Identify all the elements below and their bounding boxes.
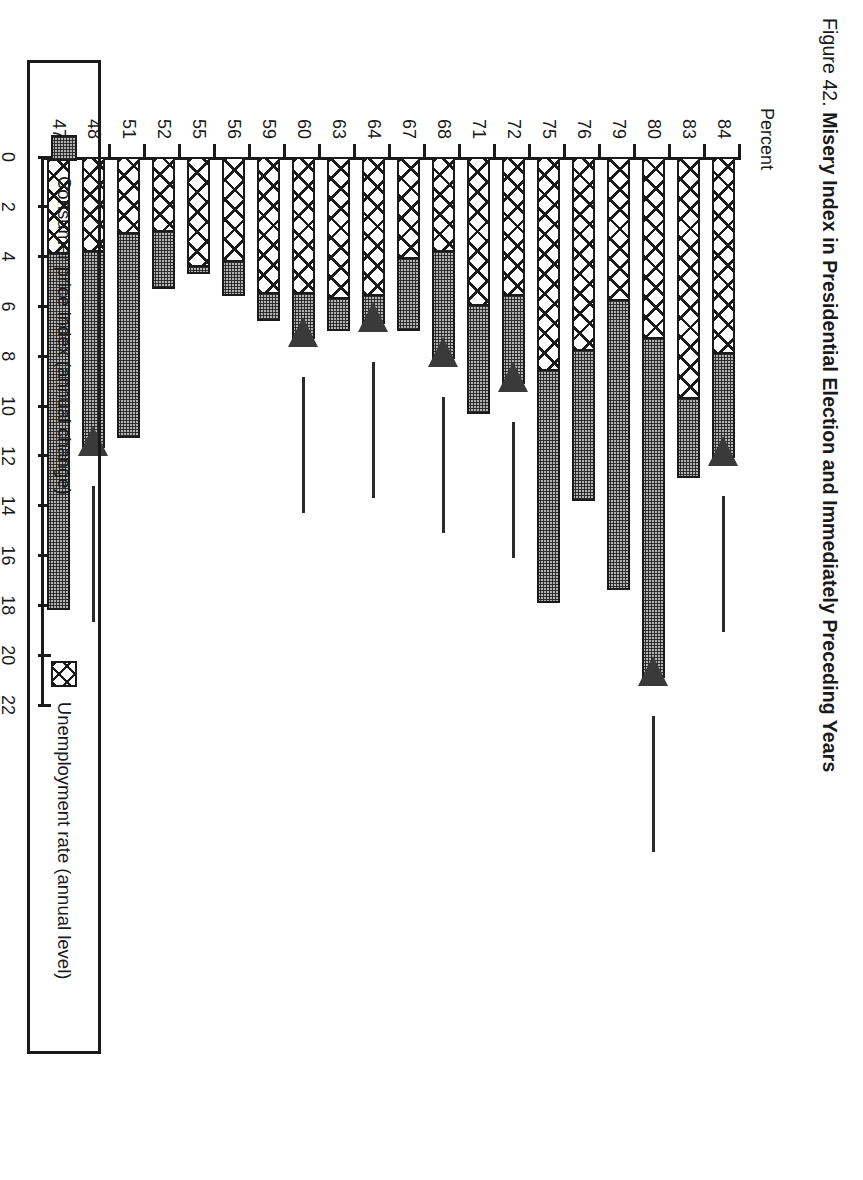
arrow-head-icon xyxy=(709,436,739,466)
bar-segment-unemployment-79 xyxy=(607,157,630,301)
category-tick-label-76: 76 xyxy=(574,87,595,139)
value-tick-label: 10 xyxy=(0,386,18,426)
arrow-shaft xyxy=(372,362,375,498)
bar-83 xyxy=(677,157,700,705)
bar-63 xyxy=(327,157,350,705)
bar-segment-cpi-83 xyxy=(677,397,700,479)
category-tick-label-64: 64 xyxy=(364,87,385,139)
category-tick xyxy=(318,144,321,157)
arrow-shaft xyxy=(302,377,305,513)
category-tick-label-72: 72 xyxy=(504,87,525,139)
bar-segment-cpi-80 xyxy=(642,337,665,678)
value-tick-label: 8 xyxy=(0,336,18,376)
arrow-shaft xyxy=(652,716,655,852)
bar-67 xyxy=(397,157,420,705)
category-tick-label-63: 63 xyxy=(329,87,350,139)
category-tick xyxy=(213,144,216,157)
bar-segment-cpi-56 xyxy=(222,260,245,297)
value-tick-label: 12 xyxy=(0,436,18,476)
category-tick xyxy=(493,144,496,157)
bar-segment-unemployment-84 xyxy=(712,157,735,354)
bar-71 xyxy=(467,157,490,705)
arrow-head-icon xyxy=(429,337,459,367)
bar-80 xyxy=(642,157,665,705)
value-tick-label: 22 xyxy=(0,685,18,725)
category-tick-label-80: 80 xyxy=(644,87,665,139)
category-tick xyxy=(423,144,426,157)
bar-52 xyxy=(152,157,175,705)
category-tick-label-83: 83 xyxy=(679,87,700,139)
arrow-head-icon xyxy=(499,362,529,392)
plot-area: 0246810121416182022 47485152555659606364… xyxy=(41,157,741,705)
bar-79 xyxy=(607,157,630,705)
bar-segment-unemployment-67 xyxy=(397,157,420,259)
figure-page: Figure 42. Misery Index in Presidential … xyxy=(0,0,863,1180)
bar-segment-unemployment-83 xyxy=(677,157,700,399)
bar-59 xyxy=(257,157,280,705)
category-tick xyxy=(528,144,531,157)
arrow-head-icon xyxy=(289,317,319,347)
bar-51 xyxy=(117,157,140,705)
value-tick-label: 2 xyxy=(0,187,18,227)
arrow-shaft xyxy=(512,422,515,558)
bar-segment-unemployment-63 xyxy=(327,157,350,299)
category-tick xyxy=(108,144,111,157)
legend-label-unemployment: Unemployment rate (annual level) xyxy=(53,702,75,980)
arrow-shaft xyxy=(442,397,445,533)
bar-segment-cpi-51 xyxy=(117,232,140,438)
category-tick xyxy=(703,144,706,157)
value-tick-label: 6 xyxy=(0,286,18,326)
category-tick-label-60: 60 xyxy=(294,87,315,139)
bar-segment-cpi-71 xyxy=(467,304,490,413)
legend-item-unemployment: Unemployment rate (annual level) xyxy=(51,661,77,980)
category-tick xyxy=(563,144,566,157)
bar-segment-unemployment-56 xyxy=(222,157,245,262)
legend-label-cpi: Consumer price index (annual change) xyxy=(53,176,75,495)
value-tick-label: 20 xyxy=(0,635,18,675)
bar-55 xyxy=(187,157,210,705)
bar-segment-cpi-67 xyxy=(397,257,420,331)
value-tick-label: 0 xyxy=(0,137,18,177)
category-tick-label-59: 59 xyxy=(259,87,280,139)
bar-segment-cpi-59 xyxy=(257,292,280,321)
category-tick-label-71: 71 xyxy=(469,87,490,139)
value-tick-label: 4 xyxy=(0,237,18,277)
bar-segment-unemployment-68 xyxy=(432,157,455,252)
value-tick-label: 14 xyxy=(0,486,18,526)
category-tick-label-67: 67 xyxy=(399,87,420,139)
bar-segment-cpi-76 xyxy=(572,349,595,500)
category-tick xyxy=(633,144,636,157)
category-tick xyxy=(598,144,601,157)
bar-segment-unemployment-76 xyxy=(572,157,595,351)
category-tick-label-79: 79 xyxy=(609,87,630,139)
bar-segment-unemployment-55 xyxy=(187,157,210,267)
category-tick xyxy=(143,144,146,157)
bar-segment-unemployment-51 xyxy=(117,157,140,234)
legend-swatch-cpi-icon xyxy=(51,135,77,161)
bar-75 xyxy=(537,157,560,705)
legend-swatch-unemployment-icon xyxy=(51,661,77,687)
value-tick-label: 18 xyxy=(0,585,18,625)
legend-item-cpi: Consumer price index (annual change) xyxy=(51,135,77,495)
bar-56 xyxy=(222,157,245,705)
category-tick xyxy=(353,144,356,157)
figure-title: Figure 42. Misery Index in Presidential … xyxy=(818,18,841,772)
bar-segment-unemployment-60 xyxy=(292,157,315,294)
category-tick xyxy=(178,144,181,157)
bar-segment-cpi-79 xyxy=(607,299,630,590)
bar-segment-unemployment-72 xyxy=(502,157,525,296)
value-axis-line xyxy=(41,157,741,160)
category-tick-label-84: 84 xyxy=(714,87,735,139)
legend-box: Consumer price index (annual change) Une… xyxy=(27,60,101,1054)
bar-segment-cpi-63 xyxy=(327,297,350,331)
rotated-figure-canvas: Figure 42. Misery Index in Presidential … xyxy=(0,0,863,1180)
category-tick-label-55: 55 xyxy=(189,87,210,139)
category-tick-label-75: 75 xyxy=(539,87,560,139)
bar-segment-unemployment-64 xyxy=(362,157,385,296)
figure-title-text: Misery Index in Presidential Election an… xyxy=(819,112,841,772)
bar-segment-unemployment-59 xyxy=(257,157,280,294)
category-tick xyxy=(388,144,391,157)
category-tick xyxy=(458,144,461,157)
bar-segment-unemployment-71 xyxy=(467,157,490,306)
value-axis-unit-label: Percent xyxy=(756,108,777,170)
